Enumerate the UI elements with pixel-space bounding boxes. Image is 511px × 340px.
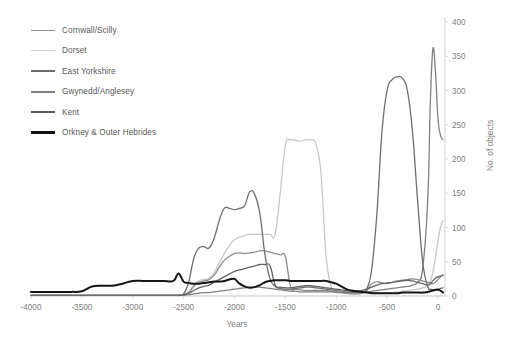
chart-container: 050100150200250300350400No. of objects-4… <box>0 0 511 340</box>
legend-swatch-east-yorkshire <box>31 70 55 72</box>
chart-legend: Cornwall/Scilly Dorset East Yorkshire Gw… <box>31 20 221 143</box>
x-axis-label: -3000 <box>122 303 143 312</box>
y-axis-label: 400 <box>452 18 466 27</box>
legend-swatch-orkney-outer-hebrides <box>31 131 55 134</box>
legend-swatch-kent <box>31 111 55 113</box>
legend-swatch-gwynedd-anglesey <box>31 91 55 93</box>
legend-label-east-yorkshire: East Yorkshire <box>62 67 116 76</box>
x-axis-label: 0 <box>436 303 441 312</box>
x-axis-label: -1000 <box>326 303 347 312</box>
y-axis-label: 150 <box>452 189 466 198</box>
legend-item[interactable]: Gwynedd/Anglesey <box>31 82 221 103</box>
legend-item[interactable]: Cornwall/Scilly <box>31 20 221 41</box>
legend-item[interactable]: East Yorkshire <box>31 61 221 82</box>
legend-item[interactable]: Orkney & Outer Hebrides <box>31 123 221 144</box>
y-axis-label: 300 <box>452 87 466 96</box>
x-axis-label: -1500 <box>275 303 296 312</box>
x-axis-label: -500 <box>379 303 396 312</box>
x-axis-label: -4000 <box>21 303 42 312</box>
legend-label-gwynedd-anglesey: Gwynedd/Anglesey <box>62 87 134 96</box>
y-axis-label: 200 <box>452 155 466 164</box>
x-axis-label: -2500 <box>173 303 194 312</box>
y-axis-label: 350 <box>452 52 466 61</box>
legend-label-dorset: Dorset <box>62 46 87 55</box>
legend-label-cornwall-scilly: Cornwall/Scilly <box>62 26 117 35</box>
legend-swatch-dorset <box>31 50 55 51</box>
x-axis-label: -3500 <box>71 303 92 312</box>
x-axis-label: -2000 <box>224 303 245 312</box>
legend-label-orkney-outer-hebrides: Orkney & Outer Hebrides <box>62 128 156 137</box>
y-axis-title: No. of objects <box>485 120 495 171</box>
legend-label-kent: Kent <box>62 108 79 117</box>
y-axis-label: 100 <box>452 224 466 233</box>
series-line-dorset <box>31 139 443 295</box>
legend-swatch-cornwall-scilly <box>31 30 55 31</box>
series-line-kent <box>31 264 443 296</box>
y-axis-label: 50 <box>452 258 462 267</box>
y-axis-label: 0 <box>452 292 457 301</box>
y-axis-label: 250 <box>452 121 466 130</box>
legend-item[interactable]: Dorset <box>31 41 221 62</box>
legend-item[interactable]: Kent <box>31 102 221 123</box>
x-axis-title: Years <box>226 319 247 329</box>
